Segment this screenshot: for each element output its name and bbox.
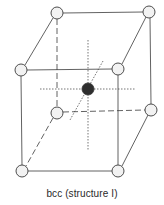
body-center-atom bbox=[82, 83, 94, 95]
corner-atom-back-bottom-right bbox=[145, 104, 157, 116]
corner-atom-front-bottom-right bbox=[112, 165, 124, 177]
corner-atom-front-top-right bbox=[112, 63, 124, 75]
edge-bottom-right-diag bbox=[122, 115, 148, 166]
atoms bbox=[15, 6, 157, 177]
edge-top-left-diag bbox=[25, 18, 53, 65]
edge-bottom-left-diag-hidden bbox=[26, 118, 53, 166]
edge-back-top bbox=[63, 12, 143, 13]
corner-atom-back-bottom-left bbox=[51, 107, 63, 119]
corner-atom-back-top-right bbox=[143, 6, 155, 18]
edge-front-top bbox=[27, 69, 112, 70]
figure-caption: bcc (structure I) bbox=[0, 188, 164, 199]
bcc-unit-cell-diagram bbox=[0, 0, 164, 205]
edge-back-right bbox=[150, 18, 151, 104]
corner-atom-front-top-left bbox=[15, 64, 27, 76]
corner-atom-back-top-left bbox=[51, 7, 63, 19]
edge-top-right-diag bbox=[122, 17, 146, 64]
edge-front-left bbox=[21, 76, 22, 165]
corner-atom-front-bottom-left bbox=[16, 165, 28, 177]
